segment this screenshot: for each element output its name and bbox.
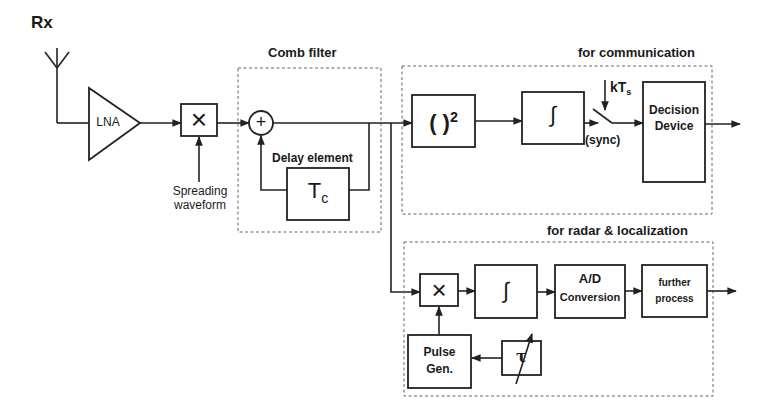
sample-clock-sub: s xyxy=(626,87,631,97)
delay-symbol: T xyxy=(308,178,321,203)
spreading-waveform-label: Spreading waveform xyxy=(160,185,240,211)
sync-label: (sync) xyxy=(585,134,620,146)
further-line2: process xyxy=(642,294,707,304)
decision-line2: Device xyxy=(643,120,705,132)
spreading-waveform-line1: Spreading xyxy=(160,185,240,197)
radar-localization-title: for radar & localization xyxy=(547,224,688,237)
antenna-icon xyxy=(45,48,89,123)
adder-symbol: + xyxy=(249,113,273,131)
wire-branch-radar xyxy=(391,123,420,292)
rx-title: Rx xyxy=(31,14,53,31)
ad-line1: A/D xyxy=(555,272,625,285)
squarer-exponent: 2 xyxy=(450,109,458,125)
radar-mixer-symbol: × xyxy=(420,274,458,306)
pulse-gen-label: Pulse Gen. xyxy=(408,346,471,375)
lna-label: LNA xyxy=(89,116,127,128)
tau-label: τ xyxy=(502,349,541,365)
pulse-line1: Pulse xyxy=(408,346,471,358)
communication-title: for communication xyxy=(578,46,695,59)
spreading-waveform-line2: waveform xyxy=(160,199,240,211)
mixer-symbol: × xyxy=(181,104,217,136)
squarer-parens: ( ) xyxy=(429,110,450,135)
delay-subscript: c xyxy=(321,190,328,206)
delay-tc-label: Tc xyxy=(287,180,349,205)
further-line1: further xyxy=(642,278,707,288)
integrator-symbol: ∫ xyxy=(522,104,584,126)
decision-line1: Decision xyxy=(643,104,705,116)
sample-clock-text: kT xyxy=(610,79,626,95)
diagram-canvas xyxy=(0,0,768,416)
further-process-label: further process xyxy=(642,278,707,304)
sampling-switch xyxy=(593,109,612,123)
ad-line2: Conversion xyxy=(555,292,625,303)
pulse-line2: Gen. xyxy=(408,363,471,375)
radar-integrator-symbol: ∫ xyxy=(475,280,537,302)
delay-element-label: Delay element xyxy=(272,152,353,164)
receiver-block-diagram: Rx LNA × Spreading waveform Comb filter … xyxy=(0,0,768,416)
decision-device-label: Decision Device xyxy=(643,104,705,132)
comb-filter-title: Comb filter xyxy=(268,46,337,59)
squarer-label: ( )2 xyxy=(412,110,475,134)
ad-conversion-label: A/D Conversion xyxy=(555,272,625,303)
sample-clock-label: kTs xyxy=(610,80,631,97)
